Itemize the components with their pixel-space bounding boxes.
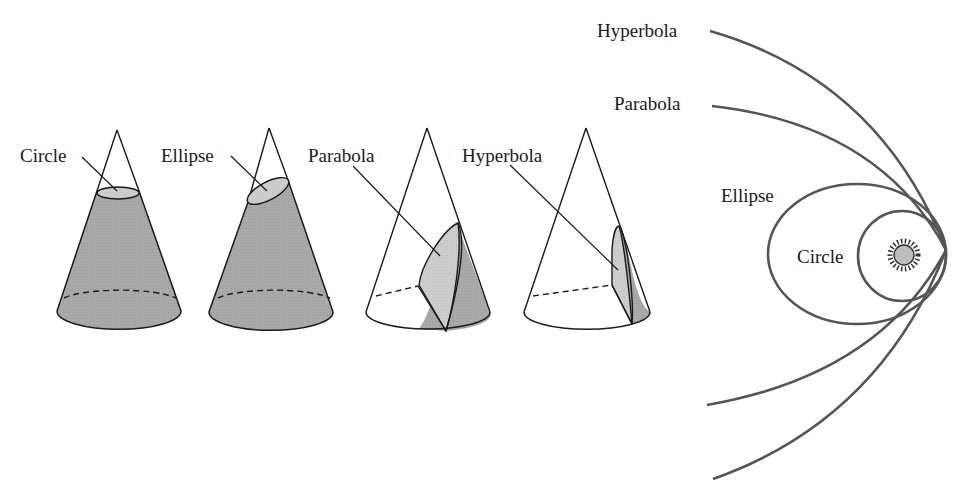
circle-leader-line <box>82 157 117 191</box>
orbit-ellipse-label: Ellipse <box>721 186 774 205</box>
orbit-circle-label: Circle <box>797 247 843 266</box>
orbit-parabola-label: Parabola <box>614 94 680 113</box>
sun-icon <box>890 241 918 269</box>
cone-ellipse-label: Ellipse <box>161 146 214 165</box>
cone-circle-label: Circle <box>20 146 66 165</box>
cone-parabola-label: Parabola <box>308 146 374 165</box>
hyperbola-leader-line <box>510 165 618 270</box>
parabola-leader-line <box>353 166 440 256</box>
ellipse-leader-line <box>231 156 267 191</box>
cone-hyperbola-label: Hyperbola <box>462 146 542 165</box>
orbit-hyperbola-label: Hyperbola <box>597 21 677 40</box>
